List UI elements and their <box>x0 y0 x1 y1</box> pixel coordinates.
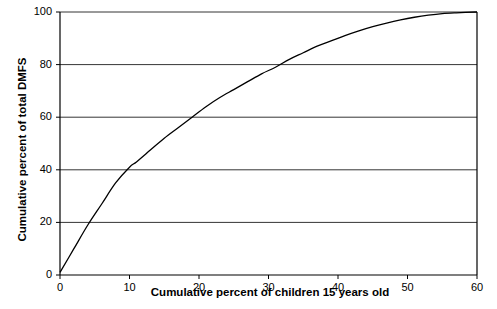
data-series <box>60 12 477 272</box>
series-line <box>60 12 477 272</box>
axis-tick-marks <box>56 12 477 279</box>
axis-lines <box>60 12 477 275</box>
chart-container: Cumulative percent of total DMFS Cumulat… <box>0 0 497 309</box>
gridlines <box>60 12 477 222</box>
plot-area <box>0 0 497 309</box>
